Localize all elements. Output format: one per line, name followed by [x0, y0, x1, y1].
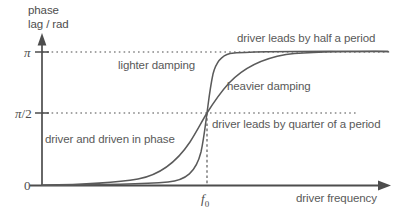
annotation-heavier-damping: heavier damping: [227, 80, 311, 93]
y-axis-arrowhead: [38, 33, 47, 46]
phase-lag-resonance-diagram: phase lag / rad π π/2 0 f0 driver freque…: [0, 0, 400, 214]
y-axis-title: phase lag / rad: [28, 3, 69, 31]
y-tick-label-zero: 0: [24, 179, 31, 192]
x-axis-arrowhead: [378, 181, 391, 191]
x-tick-label-f0: f0: [201, 192, 209, 211]
annotation-quarter-period: driver leads by quarter of a period: [212, 118, 380, 131]
y-tick-label-pi-over-2: π/2: [15, 107, 32, 120]
annotation-half-period: driver leads by half a period: [237, 32, 375, 45]
annotation-lighter-damping: lighter damping: [118, 59, 195, 72]
annotation-in-phase: driver and driven in phase: [45, 133, 175, 146]
y-tick-label-pi: π: [24, 46, 31, 59]
x-axis-title: driver frequency: [296, 192, 377, 205]
